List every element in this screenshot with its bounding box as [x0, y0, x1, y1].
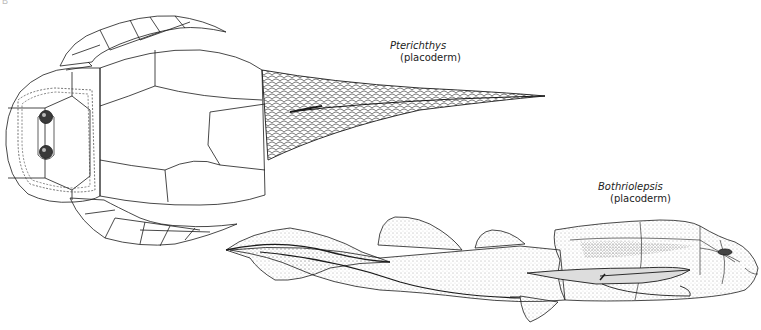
bothriolepsis-genus: Bothriolepsis	[598, 181, 671, 193]
orbits	[38, 111, 54, 160]
fossil-fish-drawings	[0, 0, 761, 330]
bothriolepsis-eye	[718, 249, 732, 255]
dorsal-fin-front	[475, 230, 525, 248]
scaly-tail	[262, 70, 545, 160]
bothriolepsis-group: (placoderm)	[598, 193, 671, 205]
dorsal-fin-rear	[378, 217, 462, 250]
pterichthys-group: (placoderm)	[390, 52, 461, 64]
upper-pectoral-appendage	[60, 16, 226, 70]
trunk-shield	[100, 50, 265, 205]
pterichthys-genus: Pterichthys	[390, 40, 461, 52]
lower-pectoral-appendage	[70, 198, 237, 246]
illustration-canvas: B	[0, 0, 761, 330]
bothriolepsis-label: Bothriolepsis (placoderm)	[598, 181, 671, 205]
pterichthys-drawing	[6, 16, 545, 246]
head-shield	[6, 68, 100, 202]
trunk-armor	[554, 220, 758, 301]
bothriolepsis-drawing	[226, 217, 758, 322]
pterichthys-label: Pterichthys (placoderm)	[390, 40, 461, 64]
